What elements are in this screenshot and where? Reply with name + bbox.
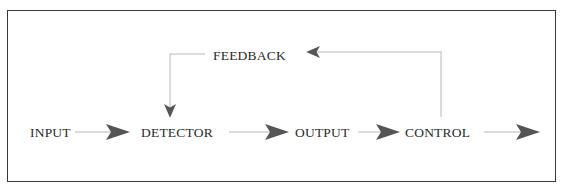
node-input: INPUT bbox=[30, 126, 71, 140]
node-output: OUTPUT bbox=[295, 126, 349, 140]
node-feedback: FEEDBACK bbox=[213, 49, 286, 63]
node-detector: DETECTOR bbox=[141, 126, 213, 140]
arrow-feedback-to-detector bbox=[170, 54, 205, 116]
arrow-control-to-feedback bbox=[308, 52, 441, 117]
flow-connectors bbox=[0, 0, 562, 186]
node-control: CONTROL bbox=[405, 126, 470, 140]
